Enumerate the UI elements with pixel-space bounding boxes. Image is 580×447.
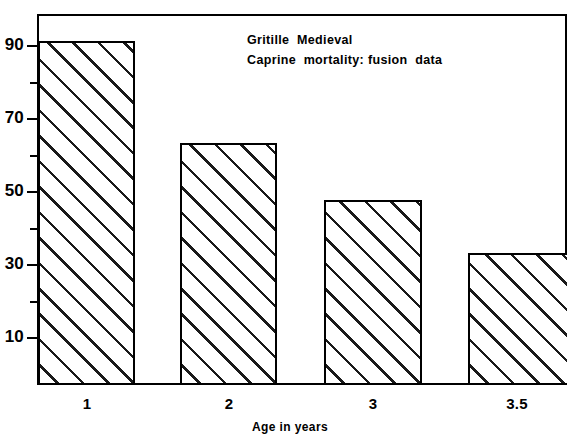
- y-tick-label-70: 70: [0, 109, 24, 126]
- y-tick-minor-80: [30, 82, 38, 84]
- y-tick-50: [27, 191, 38, 193]
- x-tick-label-1: 1: [57, 396, 117, 411]
- x-tick-label-3: 3: [343, 396, 403, 411]
- bar-age-3: [324, 200, 422, 385]
- y-tick-90: [27, 45, 38, 47]
- y-tick-70: [27, 118, 38, 120]
- x-tick-label-3-5: 3.5: [487, 396, 547, 411]
- x-tick-label-2: 2: [199, 396, 259, 411]
- y-tick-30: [27, 264, 38, 266]
- y-tick-label-10: 10: [0, 328, 24, 345]
- bar-age-1: [38, 41, 135, 385]
- chart-annotation: Gritille Medieval Caprine mortality: fus…: [247, 30, 442, 70]
- y-tick-10: [27, 337, 38, 339]
- y-tick-minor-60: [30, 155, 38, 157]
- x-axis-title: Age in years: [0, 420, 580, 434]
- annotation-line-1: Gritille Medieval: [247, 30, 442, 50]
- y-tick-minor-20: [30, 301, 38, 303]
- y-tick-label-90: 90: [0, 36, 24, 53]
- y-tick-label-50: 50: [0, 182, 24, 199]
- bar-age-2: [180, 143, 277, 385]
- plot-area: [38, 15, 567, 385]
- y-tick-minor-40: [30, 228, 38, 230]
- bar-chart: 90 70 50 30 10 1 2 3 3.5 Age in years Gr…: [0, 0, 580, 447]
- bar-age-3-5: [468, 253, 567, 385]
- y-tick-label-30: 30: [0, 255, 24, 272]
- annotation-line-2: Caprine mortality: fusion data: [247, 50, 442, 70]
